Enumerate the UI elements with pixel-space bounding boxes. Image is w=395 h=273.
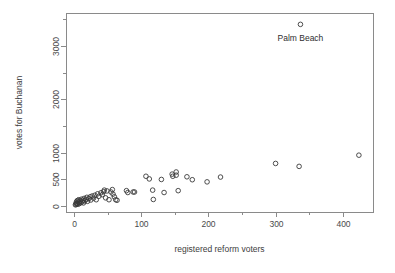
scatter-plot-figure: 01002003004000500100020003000Palm Beachr… <box>0 0 395 273</box>
data-point <box>298 22 303 27</box>
x-tick-label: 300 <box>269 219 283 229</box>
data-point <box>185 174 190 179</box>
x-tick-label: 0 <box>72 219 77 229</box>
y-tick-label: 500 <box>51 172 61 186</box>
y-tick-label: 3000 <box>51 37 61 56</box>
data-point <box>297 164 302 169</box>
x-axis-title: registered reform voters <box>174 244 264 254</box>
data-point <box>147 177 152 182</box>
data-point <box>218 175 223 180</box>
data-point <box>205 180 210 185</box>
x-tick-label: 200 <box>201 219 215 229</box>
chart-canvas: 01002003004000500100020003000Palm Beachr… <box>0 0 395 273</box>
data-point <box>273 161 278 166</box>
x-tick-label: 400 <box>336 219 350 229</box>
y-axis-title: votes for Buchanan <box>14 76 24 150</box>
data-point <box>151 197 156 202</box>
data-point <box>162 190 167 195</box>
data-point <box>159 177 164 182</box>
data-point <box>190 177 195 182</box>
data-point-group <box>73 22 361 207</box>
y-tick-label: 0 <box>51 204 61 209</box>
y-tick-label: 2000 <box>51 90 61 109</box>
x-tick-label: 100 <box>134 219 148 229</box>
data-point <box>357 153 362 158</box>
data-point <box>176 188 181 193</box>
y-tick-label: 1000 <box>51 144 61 163</box>
point-annotation-label: Palm Beach <box>278 33 324 43</box>
plot-frame <box>67 14 374 213</box>
data-point <box>150 188 155 193</box>
